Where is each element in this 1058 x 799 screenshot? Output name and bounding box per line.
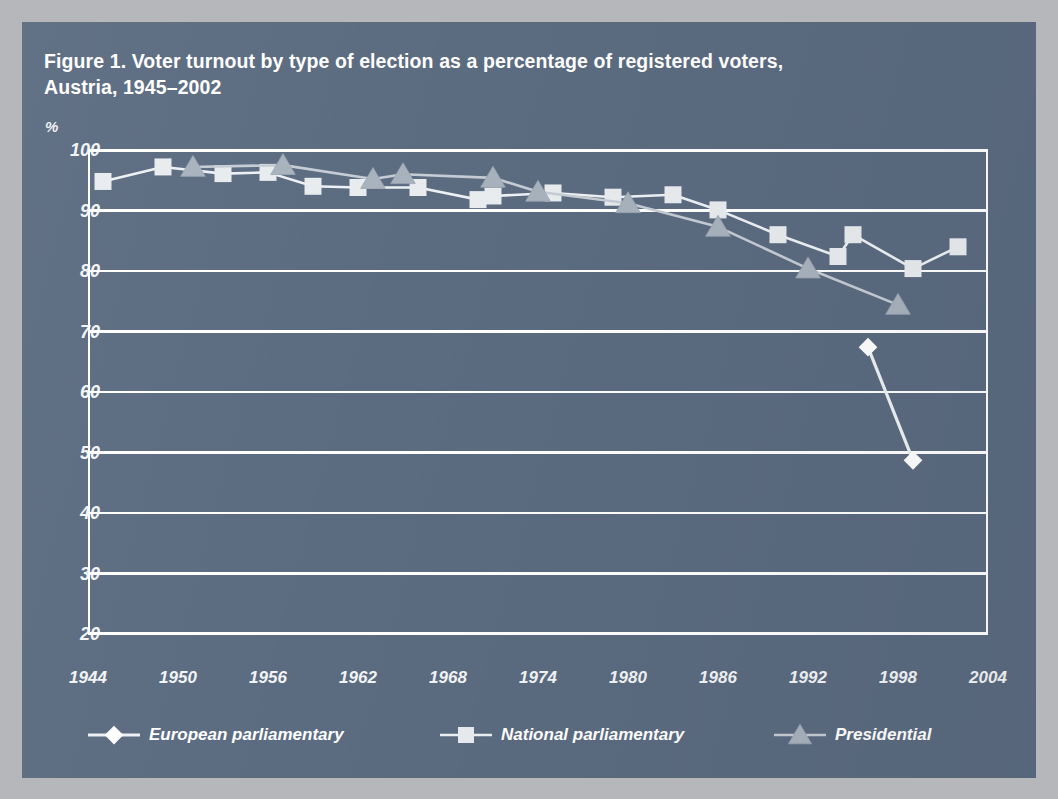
data-point-marker bbox=[886, 293, 911, 314]
figure-title: Figure 1. Voter turnout by type of elect… bbox=[44, 48, 864, 100]
x-axis-tick-label: 1962 bbox=[339, 668, 377, 688]
x-axis-tick-label: 1986 bbox=[699, 668, 737, 688]
x-axis-tick-label: 1998 bbox=[879, 668, 917, 688]
legend-item[interactable]: National parliamentary bbox=[438, 722, 684, 748]
figure-title-line-1: Figure 1. Voter turnout by type of elect… bbox=[44, 50, 783, 72]
legend-item-label: National parliamentary bbox=[501, 725, 684, 745]
figure-title-line-2: Austria, 1945–2002 bbox=[44, 74, 864, 100]
series-triangle bbox=[181, 154, 911, 315]
legend-item-label: European parliamentary bbox=[149, 725, 344, 745]
chart-legend: European parliamentaryNational parliamen… bbox=[86, 722, 986, 752]
legend-square-icon bbox=[438, 724, 494, 746]
x-axis-tick-labels: 1944195019561962196819741980198619921998… bbox=[22, 668, 1036, 696]
data-point-marker bbox=[905, 260, 922, 277]
data-point-marker bbox=[155, 158, 172, 175]
data-point-marker bbox=[859, 338, 878, 357]
x-axis-tick-label: 1956 bbox=[249, 668, 287, 688]
data-point-marker bbox=[770, 226, 787, 243]
data-series-layer bbox=[88, 150, 988, 634]
data-point-marker bbox=[904, 451, 923, 470]
x-axis-tick-label: 1974 bbox=[519, 668, 557, 688]
x-axis-tick-label: 1944 bbox=[69, 668, 107, 688]
x-axis-tick-label: 2004 bbox=[969, 668, 1007, 688]
x-axis-tick-label: 1980 bbox=[609, 668, 647, 688]
plot-area bbox=[88, 150, 988, 634]
x-axis-tick-label: 1992 bbox=[789, 668, 827, 688]
data-point-marker bbox=[95, 173, 112, 190]
legend-item-label: Presidential bbox=[835, 725, 931, 745]
legend-triangle-icon bbox=[772, 724, 828, 746]
figure-panel: Figure 1. Voter turnout by type of elect… bbox=[22, 22, 1036, 778]
data-point-marker bbox=[950, 238, 967, 255]
data-point-marker bbox=[485, 187, 502, 204]
data-point-marker bbox=[796, 257, 821, 278]
data-point-marker bbox=[665, 186, 682, 203]
series-line bbox=[868, 347, 913, 460]
x-axis-tick-label: 1968 bbox=[429, 668, 467, 688]
data-point-marker bbox=[845, 226, 862, 243]
series-diamond bbox=[859, 338, 923, 470]
legend-item[interactable]: Presidential bbox=[772, 722, 931, 748]
legend-diamond-icon bbox=[86, 724, 142, 746]
data-point-marker bbox=[830, 248, 847, 265]
figure-page: Figure 1. Voter turnout by type of elect… bbox=[0, 0, 1058, 799]
data-point-marker bbox=[470, 191, 487, 208]
data-point-marker bbox=[305, 178, 322, 195]
data-point-marker bbox=[391, 163, 416, 184]
series-square bbox=[95, 158, 967, 277]
legend-item[interactable]: European parliamentary bbox=[86, 722, 344, 748]
x-axis-tick-label: 1950 bbox=[159, 668, 197, 688]
